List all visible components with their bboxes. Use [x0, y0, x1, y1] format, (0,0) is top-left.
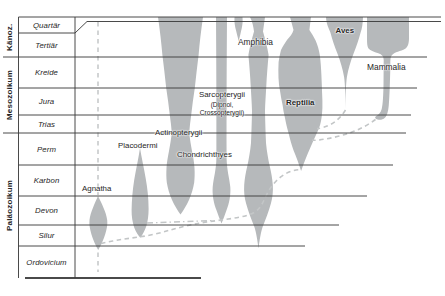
era-label-palaeozoikum: Paläozoikum — [1, 133, 18, 278]
period-label-quartaer: Quartär — [18, 17, 75, 33]
mammalia-lineage-dashed-line — [312, 120, 376, 141]
vertebrate-evolution-spindle-diagram: Känoz. Mesozoikum Paläozoikum Quartär Te… — [0, 0, 445, 296]
taxon-label-agnatha: Agnatha — [82, 184, 111, 193]
era-label-kaenozoikum: Känoz. — [1, 17, 18, 57]
spindle-reptilia — [278, 17, 322, 171]
period-label-devon: Devon — [18, 196, 75, 225]
taxon-label-mammalia: Mammalia — [367, 62, 406, 72]
taxon-label-chondrichthyes: Chondrichthyes — [177, 150, 232, 159]
period-label-tertiaer: Tertiär — [18, 33, 75, 57]
period-label-silur: Silur — [18, 225, 75, 246]
quartar-diagonal-jog — [75, 22, 87, 34]
taxon-label-reptilia: Reptilia — [286, 98, 315, 107]
taxon-label-placodermi: Placodermi — [118, 141, 157, 150]
taxon-label-sarcopterygii-sub-1: (Dipnoi, — [195, 101, 249, 108]
era-label-mesozoikum: Mesozoikum — [1, 57, 18, 133]
spindle-placodermi — [132, 148, 149, 238]
taxon-label-sarcopterygii: Sarcopterygii — [195, 90, 249, 99]
taxon-label-sarcopterygii-sub-2: Crossopterygii) — [195, 109, 249, 116]
period-label-jura: Jura — [18, 88, 75, 115]
period-label-karbon: Karbon — [18, 165, 75, 196]
period-label-trias: Trias — [18, 115, 75, 133]
taxon-label-actinopterygii: Actinopterygii — [155, 128, 202, 137]
taxon-label-amphibia: Amphibia — [238, 37, 273, 47]
period-label-perm: Perm — [18, 133, 75, 165]
period-label-kreide: Kreide — [18, 57, 75, 88]
period-label-ordovicium: Ordovicium — [18, 246, 75, 278]
spindle-sarcopterygii — [213, 17, 231, 224]
spindle-actinopterygii-chondrichthyes — [158, 17, 203, 215]
taxon-label-aves: Aves — [336, 26, 355, 35]
